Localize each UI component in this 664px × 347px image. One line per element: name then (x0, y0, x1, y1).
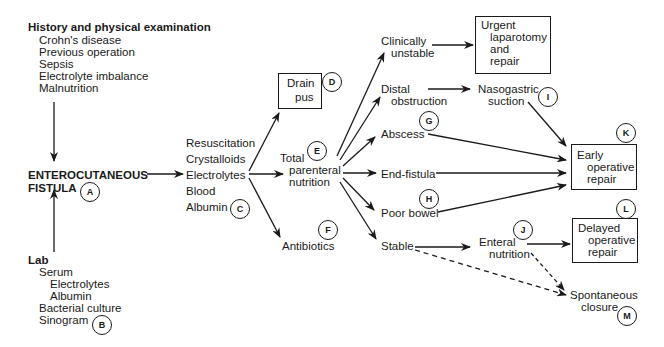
dashed-enteral-to-spontaneous (531, 253, 564, 290)
history-title: History and physical examination (28, 21, 211, 34)
step-label-f: F (318, 220, 338, 240)
urgent-laparotomy-box: Urgent laparotomy and repair (475, 16, 551, 74)
step-label-i: I (538, 87, 558, 107)
step-label-a: A (80, 182, 100, 202)
resus-item: Albumin (186, 201, 228, 214)
step-label-b: B (92, 315, 112, 335)
resus-item: Electrolytes (186, 169, 245, 182)
abscess-text: Abscess (381, 128, 424, 141)
resus-item: Blood (186, 185, 215, 198)
resus-item: Resuscitation (186, 137, 255, 150)
early-text-3: repair (587, 173, 616, 186)
drain-pus-box: Drain pus (278, 73, 322, 109)
history-item: Malnutrition (39, 82, 98, 95)
arrow-to-unstable (337, 53, 384, 156)
step-label-j: J (513, 220, 533, 240)
spontaneous-text-2: closure (581, 301, 618, 314)
step-label-g: G (419, 111, 439, 131)
fistula-title: ENTEROCUTANEOUS (28, 169, 148, 182)
nasogastric-text-2: suction (488, 95, 524, 108)
step-label-e: E (307, 141, 327, 161)
antibiotics-text: Antibiotics (282, 240, 334, 253)
enteral-text-2: nutrition (489, 248, 530, 261)
step-label-d: D (322, 72, 342, 92)
endfistula-text: End-fistula (381, 168, 435, 181)
step-label-c: C (230, 199, 250, 219)
early-repair-box: Early operative repair (571, 144, 637, 190)
drain-text-2: pus (295, 91, 314, 104)
urgent-text-4: repair (490, 55, 519, 68)
delayed-repair-box: Delayed operative repair (572, 218, 638, 263)
arrow-abscess-to-early (428, 134, 566, 160)
step-label-m: M (617, 306, 637, 326)
delayed-text-3: repair (588, 246, 617, 259)
tpn-text-3: nutrition (289, 176, 330, 189)
obstruction-text-2: obstruction (391, 95, 447, 108)
unstable-text-2: unstable (391, 47, 434, 60)
resus-item: Crystalloids (186, 153, 245, 166)
arrow-to-stable (340, 182, 376, 239)
drain-text: Drain (287, 77, 314, 90)
arrow-to-antibiotics (249, 178, 280, 237)
step-label-h: H (419, 189, 439, 209)
stable-text: Stable (381, 240, 414, 253)
arrow-to-abscess (343, 137, 375, 166)
step-label-l: L (616, 199, 636, 219)
arrow-poorbowel-to-early (438, 185, 566, 212)
step-label-k: K (616, 123, 636, 143)
arrow-nasogastric-to-early (528, 102, 566, 146)
lab-item: Sinogram (39, 314, 88, 327)
fistula-title-2: FISTULA (28, 182, 77, 195)
